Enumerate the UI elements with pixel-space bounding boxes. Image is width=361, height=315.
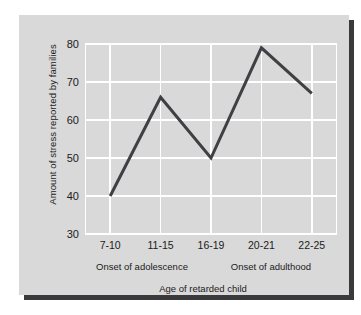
axis-annotation: Onset of adolescence [67, 261, 217, 272]
chart-figure: Amount of stress reported by families 30… [0, 0, 361, 315]
chart-card: Amount of stress reported by families 30… [19, 15, 349, 295]
x-axis-title: Age of retarded child [38, 283, 361, 294]
y-axis-tick-labels: 304050607080 [51, 44, 79, 234]
y-axis-tick-label: 40 [53, 190, 79, 202]
plot-area [85, 44, 337, 234]
y-axis-tick-label: 50 [53, 152, 79, 164]
x-axis-tick-label: 22-25 [280, 239, 344, 251]
series-line [85, 44, 337, 234]
y-axis-tick-label: 80 [53, 38, 79, 50]
y-axis-tick-label: 30 [53, 228, 79, 240]
axis-annotations: Onset of adolescenceOnset of adulthood [49, 261, 349, 277]
y-axis-tick-label: 60 [53, 114, 79, 126]
x-axis-tick-labels: 7-1011-1516-1920-2122-25 [85, 239, 337, 255]
axis-annotation: Onset of adulthood [196, 261, 346, 272]
y-axis-tick-label: 70 [53, 76, 79, 88]
